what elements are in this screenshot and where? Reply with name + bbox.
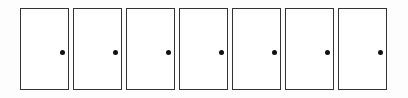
- door-knob-icon: [166, 50, 171, 55]
- door-6[interactable]: [285, 8, 334, 90]
- door-knob-icon: [378, 50, 383, 55]
- door-knob-icon: [325, 50, 330, 55]
- door-knob-icon: [272, 50, 277, 55]
- door-5[interactable]: [232, 8, 281, 90]
- door-knob-icon: [219, 50, 224, 55]
- door-3[interactable]: [126, 8, 175, 90]
- door-4[interactable]: [179, 8, 228, 90]
- door-row: [20, 8, 387, 90]
- door-7[interactable]: [338, 8, 387, 90]
- door-knob-icon: [60, 50, 65, 55]
- door-2[interactable]: [73, 8, 122, 90]
- door-1[interactable]: [20, 8, 69, 90]
- door-knob-icon: [113, 50, 118, 55]
